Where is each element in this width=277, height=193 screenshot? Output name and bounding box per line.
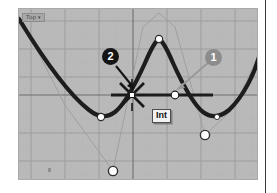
- control-point-left-valley: [97, 113, 104, 120]
- control-point-peak: [155, 35, 162, 42]
- control-polygon: [21, 13, 258, 171]
- polygon-vertex-lower-left: [108, 166, 117, 175]
- viewport-graphics: [19, 9, 258, 180]
- intersection-crosshair-cursor: [118, 79, 146, 111]
- viewport-title-label: Top: [26, 13, 36, 22]
- cad-viewport[interactable]: Top ▾ Int 2 1: [18, 8, 258, 180]
- osnap-tooltip: Int: [152, 109, 171, 123]
- control-point-on-line: [171, 91, 179, 99]
- callout-badge-2: 2: [102, 48, 119, 65]
- osnap-tooltip-label: Int: [156, 110, 167, 120]
- callout-badge-1-label: 1: [210, 51, 216, 63]
- chevron-down-icon[interactable]: ▾: [38, 15, 41, 20]
- viewport-title-tab[interactable]: Top ▾: [22, 13, 45, 22]
- origin-marker: [48, 168, 51, 172]
- polygon-vertex-lower-right: [200, 130, 209, 139]
- callout-arrows: [116, 62, 209, 90]
- callout-badge-2-label: 2: [107, 50, 113, 62]
- control-point-right-valley: [214, 114, 219, 119]
- callout-badge-1: 1: [205, 49, 222, 66]
- page-canvas: Top ▾ Int 2 1: [0, 0, 277, 193]
- page-gutter-rule: [265, 0, 266, 193]
- polygon-vertices: [108, 130, 209, 175]
